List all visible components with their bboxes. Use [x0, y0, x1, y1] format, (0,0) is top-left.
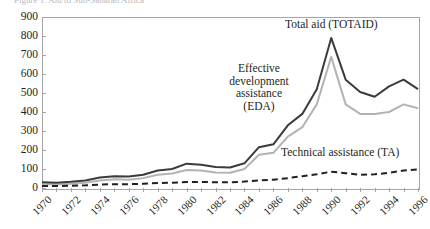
x-tick-mark	[404, 188, 405, 192]
x-tick-mark	[360, 188, 361, 192]
x-tick-label: 1980	[168, 194, 198, 224]
figure-title: Figure 1. Aid to Sub-Saharan Africa	[14, 0, 204, 5]
x-tick-label: 1984	[226, 194, 256, 224]
annotation-eda: Effective development assistance (EDA)	[222, 62, 296, 112]
x-tick-mark	[375, 188, 376, 192]
y-tick-label: 100	[4, 163, 38, 175]
x-tick-label: 1986	[255, 194, 285, 224]
y-tick-mark	[42, 74, 46, 75]
x-tick-mark	[100, 188, 101, 192]
x-tick-mark	[216, 188, 217, 192]
x-tick-label: 1974	[81, 194, 111, 224]
y-tick-label: 700	[4, 49, 38, 61]
x-tick-mark	[143, 188, 144, 192]
x-tick-mark	[71, 188, 72, 192]
x-tick-label: 1978	[139, 194, 169, 224]
x-tick-mark	[187, 188, 188, 192]
y-tick-mark	[42, 55, 46, 56]
x-tick-mark	[85, 188, 86, 192]
y-tick-mark	[42, 131, 46, 132]
annotation-totaid: Total aid (TOTAID)	[285, 18, 378, 31]
y-tick-label: 300	[4, 125, 38, 137]
x-tick-label: 1976	[110, 194, 140, 224]
y-tick-mark	[42, 150, 46, 151]
y-tick-mark	[42, 93, 46, 94]
x-tick-label: 1982	[197, 194, 227, 224]
x-tick-mark	[129, 188, 130, 192]
y-tick-mark	[42, 36, 46, 37]
x-tick-label: 1994	[370, 194, 400, 224]
x-tick-label: 1996	[399, 194, 429, 224]
y-tick-label: 200	[4, 144, 38, 156]
x-tick-mark	[273, 188, 274, 192]
x-tick-label: 1988	[284, 194, 314, 224]
x-tick-mark	[288, 188, 289, 192]
y-tick-mark	[42, 112, 46, 113]
x-tick-mark	[331, 188, 332, 192]
x-tick-mark	[158, 188, 159, 192]
x-tick-mark	[244, 188, 245, 192]
x-tick-mark	[56, 188, 57, 192]
y-axis: 9008007006005004003002001000	[0, 0, 38, 229]
x-tick-mark	[389, 188, 390, 192]
x-tick-mark	[346, 188, 347, 192]
y-tick-label: 0	[4, 182, 38, 194]
x-tick-mark	[42, 188, 43, 192]
y-tick-label: 600	[4, 68, 38, 80]
x-tick-mark	[114, 188, 115, 192]
x-tick-label: 1992	[342, 194, 372, 224]
x-tick-mark	[201, 188, 202, 192]
x-tick-mark	[172, 188, 173, 192]
x-tick-mark	[230, 188, 231, 192]
x-tick-mark	[302, 188, 303, 192]
chart-screenshot: Figure 1. Aid to Sub-Saharan Africa 9008…	[0, 0, 430, 229]
x-tick-label: 1990	[313, 194, 343, 224]
y-tick-label: 400	[4, 106, 38, 118]
y-tick-label: 800	[4, 30, 38, 42]
x-tick-label: 1972	[52, 194, 82, 224]
annotation-ta: Technical assistance (TA)	[281, 146, 399, 159]
x-tick-mark	[259, 188, 260, 192]
y-tick-label: 900	[4, 11, 38, 23]
x-tick-mark	[317, 188, 318, 192]
y-tick-mark	[42, 169, 46, 170]
x-tick-mark	[418, 188, 419, 192]
y-tick-label: 500	[4, 87, 38, 99]
